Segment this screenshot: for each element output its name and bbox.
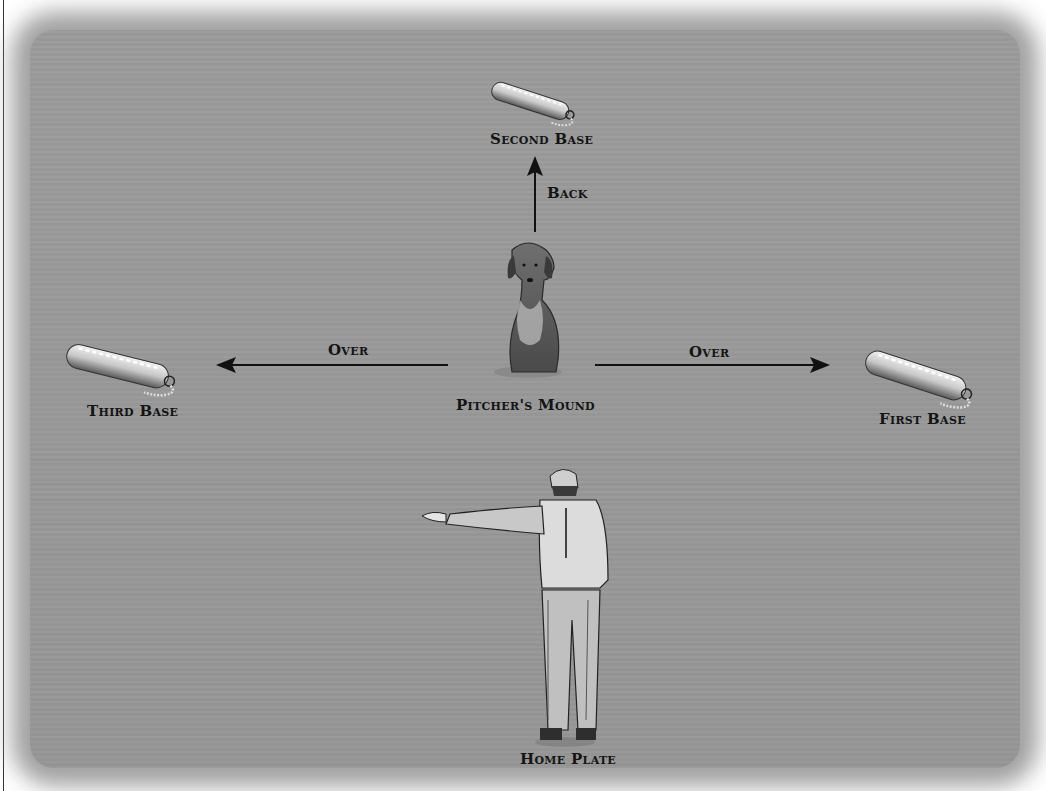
second-base-bumper-icon (488, 80, 578, 129)
first-base-bumper-icon (860, 348, 976, 412)
first-base-label: First Base (879, 410, 966, 428)
home-plate-label: Home Plate (520, 750, 616, 768)
third-base-label: Third Base (87, 402, 178, 420)
pitchers-mound-label: Pitcher's Mound (456, 396, 595, 414)
handler-pointing-icon (422, 469, 608, 747)
second-base-label: Second Base (490, 130, 593, 148)
over-left-label: Over (328, 341, 368, 359)
third-base-bumper-icon (62, 342, 178, 399)
back-label: Back (547, 184, 588, 202)
over-right-label: Over (689, 343, 729, 361)
sitting-retriever-icon (494, 243, 562, 378)
